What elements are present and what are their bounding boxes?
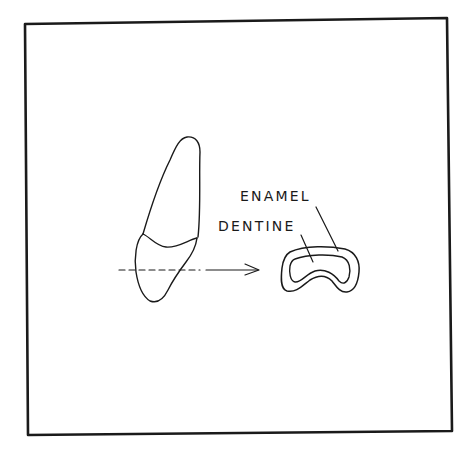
tooth-lower-outline [135, 234, 197, 302]
labels: ENAMEL DENTINE [218, 188, 338, 262]
tooth-upper-outline [143, 137, 200, 237]
dentine-inner-outline [290, 255, 350, 283]
section-arrow [119, 264, 259, 275]
tooth-longitudinal-view [135, 137, 200, 302]
enamel-outer-outline [281, 247, 359, 292]
dentine-label: DENTINE [218, 218, 296, 234]
tooth-cross-section-diagram: ENAMEL DENTINE [0, 0, 472, 450]
enamel-label: ENAMEL [240, 188, 311, 204]
enamel-leader-line [316, 207, 338, 251]
tooth-cross-section [281, 247, 359, 292]
tooth-junction-line [143, 234, 197, 247]
